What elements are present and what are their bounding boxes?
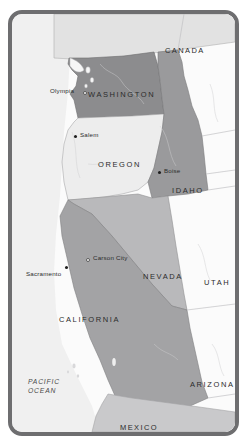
map-geography [12,14,235,432]
city-marker-olympia [83,91,87,95]
city-marker-boise [158,171,161,174]
city-marker-sacramento [65,266,68,269]
region-washington [68,52,164,118]
map-container: CANADA MEXICO WASHINGTON OREGON IDAHO NE… [0,0,247,446]
city-marker-salem [74,135,77,138]
map-frame: CANADA MEXICO WASHINGTON OREGON IDAHO NE… [8,10,239,436]
city-marker-carson-city [86,258,90,262]
